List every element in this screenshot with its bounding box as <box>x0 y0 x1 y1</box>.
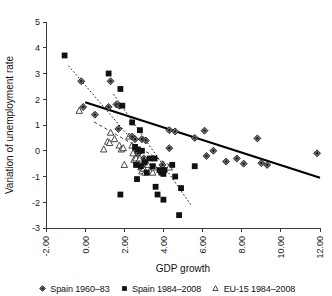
x-tick-label: 0.00 <box>81 236 91 254</box>
y-tick-label: -3 <box>32 223 40 233</box>
data-point-square <box>176 212 182 218</box>
y-tick-label: 0 <box>35 146 40 156</box>
data-point-square <box>139 148 145 154</box>
data-point-square <box>117 86 123 92</box>
data-point-square <box>153 184 159 190</box>
data-point-diamond-core <box>256 137 258 139</box>
trendline <box>69 66 130 137</box>
legend-item-2: EU-15 1984–2008 <box>210 283 295 294</box>
data-point-triangle <box>101 146 107 152</box>
x-axis-title: GDP growth <box>156 263 210 274</box>
data-point-square <box>62 53 68 59</box>
legend-item-0: Spain 1960–83 <box>37 283 110 294</box>
series-2 <box>76 107 172 175</box>
data-point-diamond-core <box>203 130 205 132</box>
data-point-square <box>178 185 184 191</box>
x-tick-label: 6.00 <box>198 236 208 254</box>
data-point-triangle <box>121 161 127 167</box>
data-point-square <box>152 156 158 162</box>
data-point-square <box>155 192 161 198</box>
data-point-diamond-core <box>80 80 82 82</box>
axis-labels-layer: GDP growthVariation of unemployment rate <box>4 55 210 274</box>
legend-item-label: EU-15 1984–2008 <box>224 284 296 294</box>
data-point-square <box>106 71 112 77</box>
axes-layer: 543210-1-2-3-2.000.002.004.006.008.0010.… <box>32 17 325 258</box>
data-point-diamond-core <box>94 114 96 116</box>
chart-figure: 543210-1-2-3-2.000.002.004.006.008.0010.… <box>0 0 332 296</box>
data-point-diamond-core <box>225 160 227 162</box>
data-point-square <box>117 192 123 198</box>
y-tick-label: -2 <box>32 198 40 208</box>
data-point-square <box>144 170 150 176</box>
data-point-diamond-core <box>161 164 163 166</box>
data-point-diamond-core <box>212 150 214 152</box>
legend-item-label: Spain 1984–2008 <box>132 284 201 294</box>
data-point-square <box>169 162 175 168</box>
data-point-diamond-core <box>236 157 238 159</box>
trendline <box>85 102 320 177</box>
data-point-diamond-core <box>316 152 318 154</box>
y-tick-label: 4 <box>35 43 40 53</box>
y-tick-label: 3 <box>35 69 40 79</box>
data-point-diamond-core <box>194 137 196 139</box>
data-point-triangle <box>213 286 218 291</box>
data-point-diamond-core <box>41 288 43 290</box>
data-point-diamond-core <box>143 157 145 159</box>
scatter-plot: 543210-1-2-3-2.000.002.004.006.008.0010.… <box>0 0 332 296</box>
data-point-square <box>161 197 167 203</box>
data-point-diamond-core <box>243 162 245 164</box>
data-point-diamond-core <box>117 128 119 130</box>
y-tick-label: 1 <box>35 120 40 130</box>
y-tick-label: -1 <box>32 172 40 182</box>
y-axis-title: Variation of unemployment rate <box>4 55 15 194</box>
data-point-square <box>119 103 125 109</box>
data-point-diamond-core <box>109 80 111 82</box>
triangle-marker-icon <box>210 283 221 294</box>
data-point-diamond-core <box>205 155 207 157</box>
data-point-diamond-core <box>168 129 170 131</box>
data-point-square <box>192 163 198 169</box>
legend-item-label: Spain 1960–83 <box>50 284 109 294</box>
data-point-square <box>172 174 178 180</box>
data-point-square <box>122 286 127 291</box>
square-marker-icon <box>119 283 130 294</box>
x-tick-label: 4.00 <box>159 236 169 254</box>
data-point-square <box>162 167 168 173</box>
series-0 <box>78 78 321 169</box>
data-point-diamond-core <box>82 106 84 108</box>
x-tick-label: -2.00 <box>41 236 51 257</box>
data-point-square <box>137 127 143 133</box>
data-point-diamond-core <box>168 147 170 149</box>
data-point-square <box>150 163 156 169</box>
y-tick-label: 5 <box>35 17 40 27</box>
data-point-triangle <box>111 136 117 142</box>
x-tick-label: 10.00 <box>276 236 286 259</box>
data-point-square <box>129 120 135 126</box>
chart-legend: Spain 1960–83Spain 1984–2008EU-15 1984–2… <box>0 283 332 294</box>
x-tick-label: 12.00 <box>315 236 325 259</box>
legend-item-1: Spain 1984–2008 <box>119 283 202 294</box>
y-tick-label: 2 <box>35 95 40 105</box>
data-point-square <box>134 176 140 182</box>
data-point-triangle <box>107 129 113 135</box>
data-point-diamond-core <box>145 139 147 141</box>
data-point-diamond-core <box>107 106 109 108</box>
x-tick-label: 2.00 <box>120 236 130 254</box>
data-point-diamond-core <box>137 152 139 154</box>
x-tick-label: 8.00 <box>237 236 247 254</box>
data-point-diamond-core <box>266 164 268 166</box>
data-point-diamond-core <box>134 138 136 140</box>
data-point-diamond-core <box>260 162 262 164</box>
diamond-marker-icon <box>37 283 48 294</box>
data-point-diamond-core <box>174 130 176 132</box>
